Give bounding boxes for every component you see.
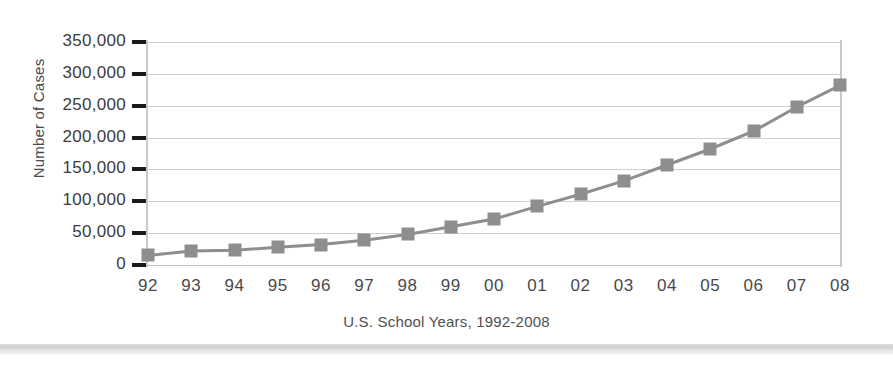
data-point-marker	[574, 188, 587, 201]
data-point-marker	[271, 241, 284, 254]
x-axis-tick-label: 97	[342, 276, 386, 296]
data-point-marker	[488, 213, 501, 226]
scan-shadow-artifact-secondary	[0, 351, 893, 354]
data-point-marker	[401, 228, 414, 241]
y-axis-tick-label: 50,000	[0, 222, 126, 242]
x-axis-tick-label: 96	[299, 276, 343, 296]
data-point-marker	[228, 244, 241, 257]
x-axis-tick-label: 01	[515, 276, 559, 296]
data-point-marker	[790, 100, 803, 113]
x-axis-title: U.S. School Years, 1992-2008	[0, 313, 893, 330]
chart-figure: Number of Cases 050,000100,000150,000200…	[0, 0, 893, 330]
x-axis-tick-label: 93	[169, 276, 213, 296]
x-axis-tick-label: 03	[602, 276, 646, 296]
x-axis-tick-label: 06	[732, 276, 776, 296]
gridline	[148, 265, 840, 266]
x-axis-tick-label: 95	[256, 276, 300, 296]
y-axis-tick-label: 100,000	[0, 190, 126, 210]
x-axis-tick-label: 92	[126, 276, 170, 296]
y-axis-tick-label: 150,000	[0, 158, 126, 178]
x-axis-tick-label: 02	[559, 276, 603, 296]
data-point-marker	[315, 238, 328, 251]
data-point-marker	[142, 249, 155, 262]
x-axis-tick-label: 07	[775, 276, 819, 296]
plot-frame-right-border	[840, 40, 842, 267]
y-axis-tick-label: 200,000	[0, 127, 126, 147]
x-axis-tick-label: 98	[386, 276, 430, 296]
chart-page: Number of Cases 050,000100,000150,000200…	[0, 0, 893, 378]
x-axis-tick-label: 08	[818, 276, 862, 296]
data-point-marker	[661, 158, 674, 171]
x-axis-tick-label: 04	[645, 276, 689, 296]
y-axis-tick-label: 0	[0, 254, 126, 274]
data-point-marker	[444, 220, 457, 233]
x-axis-tick-label: 00	[472, 276, 516, 296]
x-axis-tick-label: 99	[429, 276, 473, 296]
y-axis-tick-label: 250,000	[0, 95, 126, 115]
x-axis-tick-label: 05	[688, 276, 732, 296]
y-axis-tick-label: 300,000	[0, 63, 126, 83]
data-point-marker	[617, 174, 630, 187]
series-line	[148, 42, 840, 265]
data-point-marker	[747, 125, 760, 138]
data-point-marker	[704, 143, 717, 156]
data-point-marker	[834, 79, 847, 92]
y-axis-tick-label: 350,000	[0, 31, 126, 51]
data-point-marker	[358, 234, 371, 247]
scan-shadow-artifact	[0, 344, 893, 351]
x-axis-tick-label: 94	[213, 276, 257, 296]
plot-area	[148, 42, 840, 265]
data-point-marker	[531, 200, 544, 213]
data-point-marker	[185, 244, 198, 257]
